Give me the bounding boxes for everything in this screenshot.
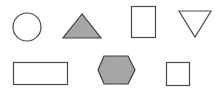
rectangle-landscape-shape — [14, 63, 68, 85]
triangle-up-shape — [63, 14, 101, 38]
circle-shape — [13, 13, 41, 41]
triangle-down-shape — [179, 11, 211, 37]
hexagon-shape — [98, 56, 135, 84]
rectangle-portrait-shape — [132, 7, 156, 38]
shapes-diagram — [0, 0, 217, 90]
square-shape — [167, 63, 190, 86]
shapes-svg — [0, 0, 217, 90]
